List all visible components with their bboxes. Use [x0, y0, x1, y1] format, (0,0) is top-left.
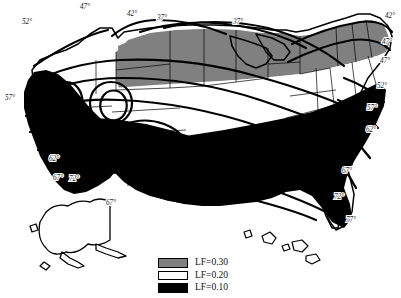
contour-label-72-southeast: 72° [334, 193, 344, 201]
contour-label-47-northeast: 47° [382, 38, 392, 46]
contour-label-67-southwest: 67° [53, 174, 63, 182]
contour-label-77-florida: 77° [346, 216, 356, 224]
contour-label-37-top-right: 37° [232, 18, 243, 26]
contour-label-52-northwest: 52° [22, 18, 32, 26]
contour-label-47-east: 47° [380, 57, 390, 65]
legend-label-lf-010: LF=0.10 [195, 283, 228, 293]
contour-label-37-top-left: 37° [156, 14, 167, 22]
contour-label-47-top: 47° [80, 3, 90, 11]
map-legend: LF=0.30 LF=0.20 LF=0.10 [158, 257, 268, 295]
legend-item: LF=0.30 [158, 257, 268, 269]
contour-label-67-southcenter: 67° [106, 199, 116, 207]
legend-swatch-lf-010 [158, 283, 188, 293]
map-figure: 47° 47° 42° 42° 37° 37° 37° 37° 42° 42° … [0, 0, 401, 298]
legend-item: LF=0.10 [158, 282, 268, 294]
legend-label-lf-020: LF=0.20 [195, 271, 228, 281]
map-canvas: 47° 47° 42° 42° 37° 37° 37° 37° 42° 42° … [0, 0, 401, 298]
contour-label-57-west: 57° [5, 94, 15, 102]
contour-label-62-west: 62° [49, 155, 59, 163]
contour-label-62-east: 62° [366, 126, 376, 134]
contour-label-42-northeast: 42° [385, 12, 395, 20]
legend-item: LF=0.20 [158, 270, 268, 282]
legend-label-lf-030: LF=0.30 [195, 258, 228, 268]
contour-label-52-east: 52° [377, 82, 387, 90]
contour-label-42-top: 42° [127, 10, 137, 18]
contour-label-67-southeast: 67° [342, 167, 352, 175]
inset-alaska [30, 199, 126, 270]
legend-swatch-lf-020 [158, 271, 188, 281]
contour-label-57-east: 57° [367, 104, 377, 112]
contour-label-72-southwest: 72° [69, 175, 79, 183]
legend-swatch-lf-030 [158, 258, 188, 268]
